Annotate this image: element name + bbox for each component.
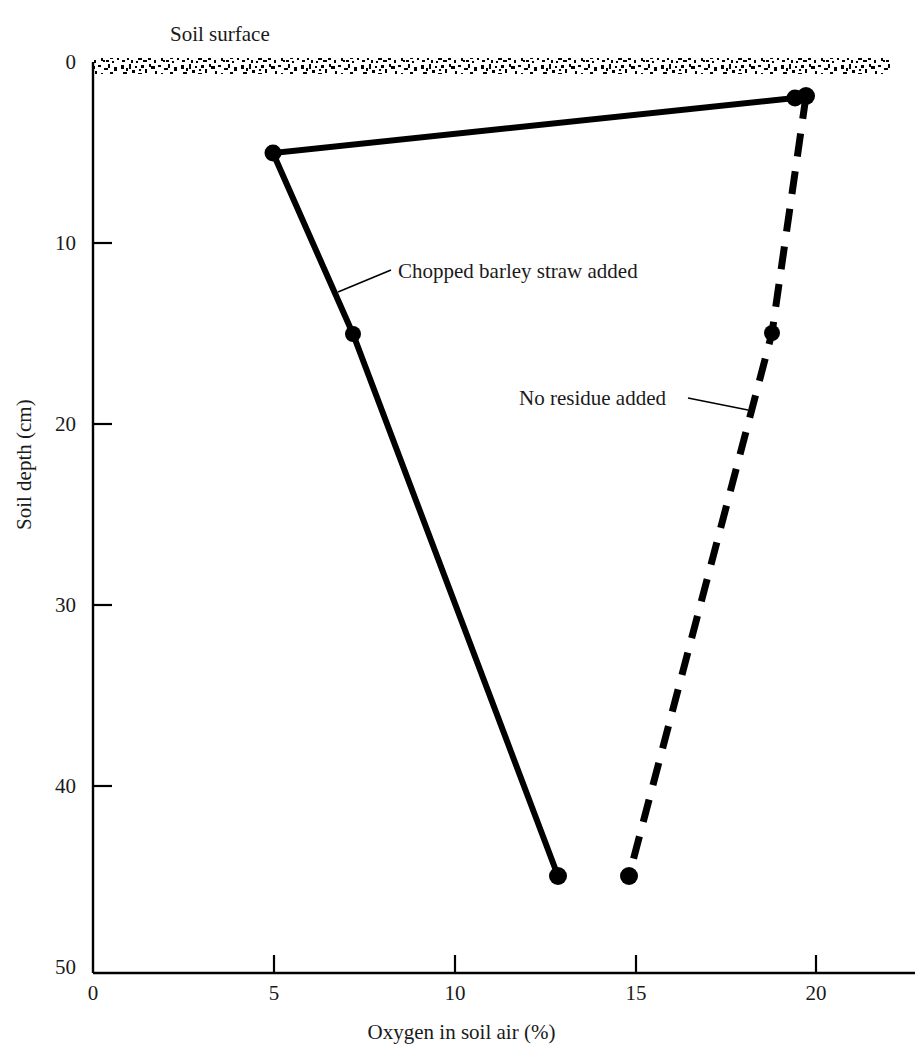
series-annotation-no-residue: No residue added [519, 386, 666, 411]
series-markers-chopped-barley-straw [265, 90, 804, 886]
x-tick-label-15: 15 [616, 983, 656, 1004]
leader-line-chopped-barley-straw [338, 270, 391, 292]
data-point [265, 145, 282, 162]
x-axis-title: Oxygen in soil air (%) [0, 1020, 923, 1045]
soil-surface-caption: Soil surface [170, 22, 270, 47]
soil-oxygen-depth-figure: Soil surface 0 10 20 30 40 50 0 5 10 15 … [0, 0, 923, 1054]
leader-line-no-residue [688, 398, 748, 410]
chart-canvas [0, 0, 923, 1054]
data-point [345, 326, 361, 342]
data-point [549, 867, 567, 885]
x-tick-label-10: 10 [435, 983, 475, 1004]
series-line-no-residue [629, 96, 806, 876]
series-markers-no-residue [620, 87, 815, 885]
y-tick-label-0: 0 [36, 52, 76, 73]
series-annotation-chopped-barley-straw: Chopped barley straw added [398, 259, 638, 284]
y-axis-title: Soil depth (cm) [12, 399, 37, 530]
data-point [797, 87, 815, 105]
series-line-chopped-barley-straw [273, 98, 795, 876]
x-axis-ticks [274, 955, 816, 973]
y-tick-label-10: 10 [26, 233, 76, 254]
y-tick-label-40: 40 [26, 776, 76, 797]
x-tick-label-0: 0 [73, 983, 113, 1004]
y-tick-label-50: 50 [26, 957, 76, 978]
y-axis-ticks [93, 243, 112, 786]
x-tick-label-20: 20 [796, 983, 836, 1004]
x-tick-label-5: 5 [254, 983, 294, 1004]
data-point [764, 325, 780, 341]
data-point [620, 867, 638, 885]
soil-surface-band [93, 58, 890, 74]
y-tick-label-30: 30 [26, 595, 76, 616]
